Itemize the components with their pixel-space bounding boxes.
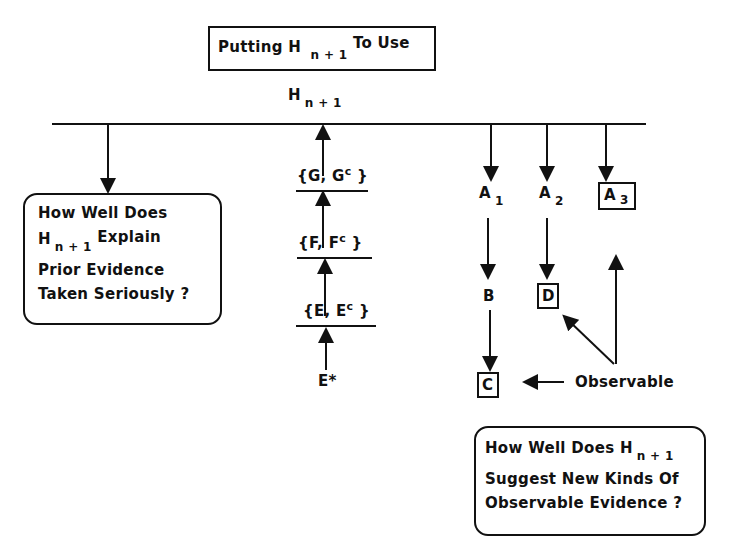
hypothesis-main: H xyxy=(288,86,301,104)
hypothesis-node: Hn + 1 xyxy=(288,86,342,104)
node-a1: A1 xyxy=(479,184,504,202)
left-box-subscript: n + 1 xyxy=(55,240,92,254)
chain-g-label: {G, G xyxy=(297,167,345,185)
title-prefix: Putting H xyxy=(218,38,301,56)
left-box-line4: Taken Seriously ? xyxy=(38,282,189,306)
observable-label: Observable xyxy=(575,373,674,391)
node-b: B xyxy=(483,287,495,305)
a3-main: A xyxy=(604,186,616,204)
right-box-line1: How Well Does Hn + 1 xyxy=(485,434,682,463)
chain-g-sup: c xyxy=(345,165,352,178)
node-d-box: D xyxy=(537,283,559,309)
a2-subscript: 2 xyxy=(555,194,564,208)
chain-f-sup: c xyxy=(339,232,346,245)
suggest-new-evidence-box: How Well Does Hn + 1 Suggest New Kinds O… xyxy=(474,426,706,536)
diagram-canvas: Putting H n + 1 To Use Hn + 1 How Well D… xyxy=(0,0,732,548)
a1-main: A xyxy=(479,184,491,202)
a2-main: A xyxy=(539,184,551,202)
chain-e-label: {E, E xyxy=(303,302,347,320)
title-box: Putting H n + 1 To Use xyxy=(208,26,436,71)
chain-node-e: {E, Ec } xyxy=(303,302,370,320)
chain-e-sup: c xyxy=(347,300,354,313)
chain-node-f: {F, Fc } xyxy=(298,234,363,252)
node-a3: A3 xyxy=(604,186,629,204)
right-box-subscript: n + 1 xyxy=(637,449,674,463)
explain-prior-evidence-box: How Well Does Hn + 1 Explain Prior Evide… xyxy=(23,193,222,325)
node-c-box: C xyxy=(477,372,499,398)
chain-g-close: } xyxy=(357,167,368,185)
left-box-line2: Hn + 1 Explain xyxy=(38,225,189,254)
right-box-line3: Observable Evidence ? xyxy=(485,491,682,515)
chain-f-close: } xyxy=(352,234,363,252)
title-text: Putting H n + 1 To Use xyxy=(218,38,410,56)
node-a3-box: A3 xyxy=(598,182,636,210)
title-subscript: n + 1 xyxy=(311,48,348,62)
chain-f-label: {F, F xyxy=(298,234,339,252)
a3-subscript: 3 xyxy=(620,193,629,207)
hypothesis-subscript: n + 1 xyxy=(305,96,342,110)
node-a2: A2 xyxy=(539,184,564,202)
left-box-line3: Prior Evidence xyxy=(38,258,189,282)
right-box-line1-main: How Well Does H xyxy=(485,439,633,457)
node-d: D xyxy=(542,287,555,305)
right-box-line2: Suggest New Kinds Of xyxy=(485,467,682,491)
evidence-star-node: E* xyxy=(318,372,337,390)
chain-node-g: {G, Gc } xyxy=(297,167,368,185)
left-box-explain: Explain xyxy=(97,228,161,246)
left-box-h: H xyxy=(38,230,51,248)
a1-subscript: 1 xyxy=(495,194,504,208)
left-box-line1: How Well Does xyxy=(38,201,189,225)
title-suffix: To Use xyxy=(353,34,410,52)
chain-e-close: } xyxy=(359,302,370,320)
node-c: C xyxy=(482,376,493,394)
